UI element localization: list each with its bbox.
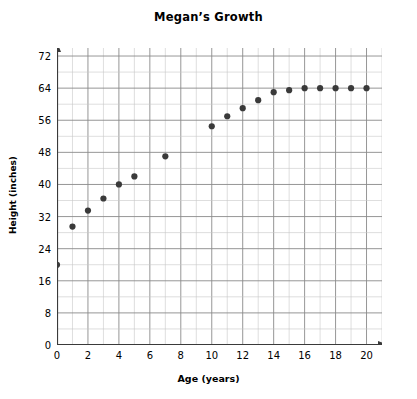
x-axis-title: Age (years) <box>0 373 417 384</box>
x-tick-label: 6 <box>135 350 165 361</box>
x-tick-label: 18 <box>321 350 351 361</box>
data-point <box>302 85 308 91</box>
y-tick-label: 8 <box>23 307 51 318</box>
data-point <box>332 85 338 91</box>
plot-canvas <box>57 48 382 345</box>
data-point <box>363 85 369 91</box>
data-point <box>69 224 75 230</box>
data-point <box>162 153 168 159</box>
data-point <box>317 85 323 91</box>
growth-scatter-chart: Megan’s Growth Height (inches) Age (year… <box>0 0 417 399</box>
x-tick-label: 10 <box>197 350 227 361</box>
x-tick-label: 0 <box>42 350 72 361</box>
x-tick-label: 4 <box>104 350 134 361</box>
y-tick-label: 16 <box>23 275 51 286</box>
y-tick-label: 32 <box>23 211 51 222</box>
data-point <box>224 113 230 119</box>
x-tick-label: 20 <box>352 350 382 361</box>
data-point <box>85 207 91 213</box>
data-point <box>131 173 137 179</box>
chart-title: Megan’s Growth <box>0 10 417 24</box>
data-point <box>116 181 122 187</box>
data-point <box>255 97 261 103</box>
y-tick-label: 40 <box>23 179 51 190</box>
data-point <box>57 262 60 268</box>
x-axis-arrow <box>378 341 382 345</box>
y-tick-label: 0 <box>23 340 51 351</box>
y-tick-label: 72 <box>23 51 51 62</box>
x-tick-label: 16 <box>290 350 320 361</box>
y-tick-label: 24 <box>23 243 51 254</box>
y-tick-label: 56 <box>23 115 51 126</box>
data-point <box>286 87 292 93</box>
y-tick-label: 64 <box>23 83 51 94</box>
y-axis-tick-labels: 081624324048566472 <box>18 48 51 345</box>
data-point <box>271 89 277 95</box>
plot-area <box>57 48 382 345</box>
x-tick-label: 14 <box>259 350 289 361</box>
x-tick-label: 2 <box>73 350 103 361</box>
x-axis-tick-labels: 02468101214161820 <box>57 350 382 366</box>
x-tick-label: 12 <box>228 350 258 361</box>
data-point <box>209 123 215 129</box>
data-point <box>348 85 354 91</box>
y-axis-title: Height (inches) <box>8 125 18 265</box>
data-point <box>100 195 106 201</box>
x-tick-label: 8 <box>166 350 196 361</box>
y-axis-arrow <box>57 48 61 52</box>
y-tick-label: 48 <box>23 147 51 158</box>
data-point <box>240 105 246 111</box>
